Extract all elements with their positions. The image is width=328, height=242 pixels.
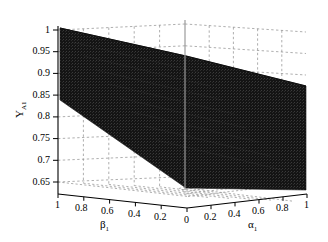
y-axis-title-subscript: A1	[20, 101, 28, 110]
alpha-axis-title-subscript: 1	[254, 225, 258, 233]
surface-facet-right	[186, 56, 306, 190]
y-tick-label-0.75: 0.75	[18, 133, 50, 143]
y-tick-label-0.9: 0.9	[18, 68, 50, 78]
alpha-tick-label-0.6: 0.6	[252, 206, 265, 216]
beta-tick-label-0.8: 0.8	[75, 203, 88, 213]
y-tick-label-0.95: 0.95	[18, 46, 50, 56]
y-axis-title: YA1	[13, 101, 28, 118]
y-tick-label-0.85: 0.85	[18, 90, 50, 100]
alpha-tick-label-1: 1	[304, 200, 309, 210]
y-axis-ticks	[53, 30, 58, 182]
y-tick-label-1: 1	[24, 25, 50, 35]
alpha-tick-label-0.2: 0.2	[204, 212, 217, 222]
beta-axis-title-subscript: 1	[106, 225, 110, 233]
surface-mesh	[60, 28, 306, 196]
y-axis-title-text: Y	[13, 110, 25, 118]
beta-tick-label-0.2: 0.2	[154, 212, 167, 222]
alpha-axis-title: α1	[248, 219, 257, 233]
y-tick-label-0.7: 0.7	[18, 155, 50, 165]
alpha-tick-label-0.8: 0.8	[276, 203, 289, 213]
figure-3d-surface-plot: 1 0.95 0.9 0.85 0.8 0.75 0.7 0.65 YA1 1 …	[0, 0, 328, 242]
y-tick-label-0.65: 0.65	[18, 177, 50, 187]
alpha-tick-label-0.4: 0.4	[228, 209, 241, 219]
beta-tick-label-0: 0	[184, 215, 189, 225]
beta-tick-label-0.6: 0.6	[101, 206, 114, 216]
beta-tick-label-0.4: 0.4	[128, 209, 141, 219]
beta-tick-label-1: 1	[55, 200, 60, 210]
beta-axis-title: β1	[100, 219, 109, 233]
